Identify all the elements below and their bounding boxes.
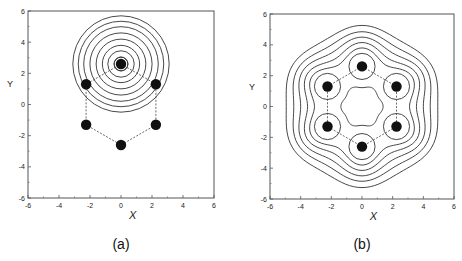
figure: -6-4-20246-6-4-20246XY(a) -6-4-20246-6-4… — [0, 0, 462, 261]
panel-label: (a) — [112, 236, 129, 252]
x-tick-label: -6 — [25, 202, 31, 209]
panel-a-chart: -6-4-20246-6-4-20246XY(a) — [7, 8, 216, 253]
x-tick-label: 6 — [212, 202, 216, 209]
x-tick-label: 2 — [391, 203, 395, 210]
y-tick-label: -6 — [261, 196, 267, 203]
atom-marker — [322, 81, 332, 91]
x-axis-label: X — [369, 210, 378, 222]
y-tick-label: -4 — [19, 163, 25, 170]
x-tick-label: 6 — [452, 203, 456, 210]
x-tick-label: -2 — [87, 202, 93, 209]
atom-marker — [357, 141, 367, 151]
x-tick-label: -4 — [56, 202, 62, 209]
atom-marker — [357, 61, 367, 71]
atom-marker — [116, 59, 126, 69]
y-axis-label: Y — [7, 79, 13, 89]
y-tick-label: -6 — [19, 195, 25, 202]
x-tick-label: 2 — [150, 202, 154, 209]
bond-lines — [86, 64, 156, 145]
atom-marker — [116, 140, 126, 150]
y-tick-label: 6 — [263, 11, 267, 18]
x-tick-label: 0 — [360, 203, 364, 210]
x-tick-label: -6 — [267, 203, 273, 210]
x-tick-label: 4 — [181, 202, 185, 209]
atom-marker — [322, 121, 332, 131]
atom-marker — [81, 79, 91, 89]
y-tick-label: -4 — [261, 165, 267, 172]
atom-marker — [391, 81, 401, 91]
x-tick-label: -4 — [298, 203, 304, 210]
y-tick-label: 6 — [21, 8, 25, 15]
x-tick-label: 0 — [119, 202, 123, 209]
atom-marker — [81, 120, 91, 130]
panel-label: (b) — [353, 236, 370, 252]
x-tick-label: 4 — [421, 203, 425, 210]
y-tick-label: 2 — [21, 70, 25, 77]
y-tick-label: 4 — [21, 39, 25, 46]
plot-frame — [270, 14, 454, 199]
y-tick-label: 0 — [21, 101, 25, 108]
atom-marker — [151, 120, 161, 130]
panel-b-chart: -6-4-20246-6-4-20246XY(b) — [249, 11, 456, 253]
x-tick-label: -2 — [328, 203, 334, 210]
y-axis-label: Y — [249, 82, 255, 92]
contour-lines — [286, 25, 438, 187]
y-tick-label: -2 — [261, 134, 267, 141]
y-tick-label: 0 — [263, 103, 267, 110]
y-tick-label: 2 — [263, 72, 267, 79]
y-tick-label: 4 — [263, 41, 267, 48]
x-axis-label: X — [128, 209, 137, 221]
y-tick-label: -2 — [19, 132, 25, 139]
atom-marker — [151, 79, 161, 89]
atom-marker — [391, 121, 401, 131]
